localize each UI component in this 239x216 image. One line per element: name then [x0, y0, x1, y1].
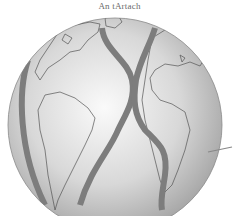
globe-sphere: [8, 18, 222, 216]
globe-illustration: [0, 0, 239, 216]
